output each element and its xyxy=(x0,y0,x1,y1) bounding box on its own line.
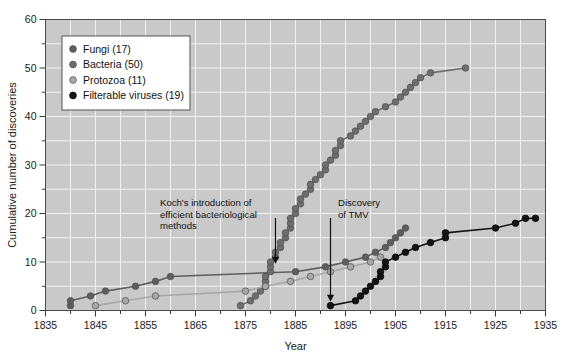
data-point xyxy=(442,230,449,237)
data-point xyxy=(377,268,384,275)
data-point xyxy=(167,273,174,280)
data-point xyxy=(532,215,539,222)
chart-legend: Fungi (17)Bacteria (50)Protozoa (11)Filt… xyxy=(62,36,190,110)
data-point xyxy=(122,298,129,305)
legend-marker-icon xyxy=(70,46,77,53)
data-point xyxy=(322,264,329,271)
x-tick-label: 1855 xyxy=(134,319,158,331)
data-point xyxy=(282,230,289,237)
data-point xyxy=(152,278,159,285)
data-point xyxy=(512,220,519,227)
x-tick-label: 1845 xyxy=(84,319,108,331)
y-tick-label: 30 xyxy=(25,159,37,171)
data-point xyxy=(87,293,94,300)
data-point xyxy=(362,118,369,125)
data-point xyxy=(292,205,299,212)
data-point xyxy=(352,298,359,305)
annotation-line: Koch's introduction of xyxy=(160,197,252,208)
data-point xyxy=(67,298,74,305)
annotation-line: methods xyxy=(160,220,197,231)
data-point xyxy=(367,259,374,266)
legend-marker-icon xyxy=(70,61,77,68)
annotation-line: Discovery xyxy=(338,197,380,208)
x-tick-label: 1885 xyxy=(284,319,308,331)
data-point xyxy=(352,128,359,135)
data-point xyxy=(327,157,334,164)
x-tick-label: 1865 xyxy=(184,319,208,331)
data-point xyxy=(237,302,244,309)
data-point xyxy=(292,268,299,275)
data-point xyxy=(387,239,394,246)
data-point xyxy=(317,171,324,178)
data-point xyxy=(372,108,379,115)
data-point xyxy=(342,259,349,266)
data-point xyxy=(417,74,424,81)
data-point xyxy=(287,215,294,222)
x-tick-label: 1875 xyxy=(234,319,258,331)
data-point xyxy=(522,215,529,222)
data-point xyxy=(332,147,339,154)
data-point xyxy=(277,239,284,246)
x-tick-label: 1895 xyxy=(334,319,358,331)
legend-label: Fungi (17) xyxy=(83,43,131,55)
legend-label: Filterable viruses (19) xyxy=(83,89,184,101)
y-tick-label: 50 xyxy=(25,62,37,74)
data-point xyxy=(412,244,419,251)
data-point xyxy=(307,181,314,188)
data-point xyxy=(302,191,309,198)
x-tick-label: 1925 xyxy=(484,319,508,331)
data-point xyxy=(402,225,409,232)
data-point xyxy=(402,89,409,96)
data-point xyxy=(252,293,259,300)
data-point xyxy=(247,298,254,305)
data-point xyxy=(382,244,389,251)
data-point xyxy=(132,283,139,290)
data-point xyxy=(427,70,434,77)
data-point xyxy=(242,288,249,295)
data-point xyxy=(392,99,399,106)
data-point xyxy=(407,84,414,91)
data-point xyxy=(427,239,434,246)
x-axis-title: Year xyxy=(284,340,307,352)
legend-marker-icon xyxy=(70,92,77,99)
data-point xyxy=(357,293,364,300)
data-point xyxy=(357,123,364,130)
x-tick-label: 1935 xyxy=(534,319,558,331)
data-point xyxy=(347,133,354,140)
data-point xyxy=(492,225,499,232)
x-tick-label: 1905 xyxy=(384,319,408,331)
data-point xyxy=(267,259,274,266)
data-point xyxy=(312,176,319,183)
chart-figure: 0102030405060183518451855186518751885189… xyxy=(0,0,562,352)
annotation-line: of TMV xyxy=(338,209,369,220)
data-point xyxy=(102,288,109,295)
data-point xyxy=(397,94,404,101)
data-point xyxy=(372,249,379,256)
y-tick-label: 40 xyxy=(25,110,37,122)
y-axis-title: Cumulative number of discoveries xyxy=(6,82,18,248)
data-point xyxy=(152,293,159,300)
data-point xyxy=(382,104,389,111)
cumulative-discoveries-chart: 0102030405060183518451855186518751885189… xyxy=(0,0,562,352)
data-point xyxy=(392,254,399,261)
legend-marker-icon xyxy=(70,77,77,84)
legend-label: Protozoa (11) xyxy=(83,74,146,86)
data-point xyxy=(397,230,404,237)
data-point xyxy=(322,162,329,169)
data-point xyxy=(367,113,374,120)
x-tick-label: 1915 xyxy=(434,319,458,331)
data-point xyxy=(362,254,369,261)
data-point xyxy=(262,273,269,280)
data-point xyxy=(92,302,99,309)
y-tick-label: 20 xyxy=(25,207,37,219)
data-point xyxy=(307,273,314,280)
data-point xyxy=(297,196,304,203)
data-point xyxy=(327,302,334,309)
data-point xyxy=(367,283,374,290)
data-point xyxy=(412,79,419,86)
y-tick-label: 60 xyxy=(25,13,37,25)
data-point xyxy=(377,254,384,261)
data-point xyxy=(382,259,389,266)
data-point xyxy=(462,65,469,72)
data-point xyxy=(287,278,294,285)
